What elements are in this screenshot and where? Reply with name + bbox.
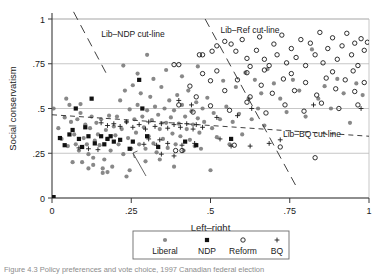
point-reform	[215, 69, 219, 73]
point-liberal	[139, 91, 143, 95]
point-ndp	[77, 137, 81, 141]
point-reform	[345, 31, 349, 35]
point-liberal	[231, 120, 235, 124]
point-liberal	[86, 166, 90, 170]
legend-marker-liberal	[163, 238, 167, 242]
point-liberal	[304, 114, 308, 118]
point-reform	[210, 49, 214, 53]
point-liberal	[174, 142, 178, 146]
point-reform	[194, 95, 198, 99]
y-tick-label-.25: .25	[32, 149, 45, 159]
legend-marker-ndp	[205, 238, 209, 242]
point-bq	[248, 144, 253, 149]
point-liberal	[156, 113, 160, 117]
point-liberal	[188, 138, 192, 142]
point-liberal	[354, 81, 358, 85]
point-liberal	[90, 114, 94, 118]
point-liberal	[123, 89, 127, 93]
point-liberal	[310, 47, 314, 51]
point-liberal	[104, 128, 108, 132]
legend-label-liberal: Liberal	[152, 246, 178, 256]
point-liberal	[240, 132, 244, 136]
point-liberal	[121, 63, 125, 67]
point-reform	[313, 53, 317, 57]
point-reform	[292, 88, 296, 92]
series-ndp	[51, 78, 233, 199]
point-liberal	[210, 126, 214, 130]
point-liberal	[284, 110, 288, 114]
point-bq	[189, 103, 194, 108]
point-reform	[283, 103, 287, 107]
point-liberal	[178, 134, 182, 138]
point-liberal	[170, 131, 174, 135]
point-liberal	[278, 97, 282, 101]
point-bq	[249, 106, 254, 111]
point-reform	[259, 83, 263, 87]
legend-label-ndp: NDP	[198, 246, 216, 256]
point-reform	[280, 33, 284, 37]
point-reform	[351, 69, 355, 73]
point-liberal	[335, 77, 339, 81]
point-reform	[359, 36, 363, 40]
point-reform	[289, 46, 293, 50]
cut-line-label-lib-bq-cut-line: Lib–BQ cut-line	[283, 129, 341, 139]
point-reform	[319, 101, 323, 105]
point-liberal	[143, 147, 147, 151]
point-liberal	[91, 156, 95, 160]
point-liberal	[71, 160, 75, 164]
y-axis-title: Social conservatism	[7, 66, 18, 151]
figure-caption: Figure 4.3 Policy preferences and vote c…	[4, 263, 376, 276]
point-reform	[362, 80, 366, 84]
point-reform	[223, 39, 227, 43]
point-reform	[270, 91, 274, 95]
point-reform	[334, 87, 338, 91]
point-ndp	[109, 134, 113, 138]
point-reform	[245, 100, 249, 104]
point-liberal	[131, 83, 135, 87]
point-reform	[248, 64, 252, 68]
point-liberal	[121, 152, 125, 156]
point-reform	[324, 76, 328, 80]
point-ndp	[183, 140, 187, 144]
point-liberal	[75, 117, 79, 121]
point-liberal	[202, 120, 206, 124]
point-liberal	[250, 117, 254, 121]
legend-label-reform: Reform	[229, 246, 257, 256]
point-liberal	[145, 53, 149, 57]
point-liberal	[137, 142, 141, 146]
point-reform	[200, 71, 204, 75]
point-ndp	[71, 128, 75, 132]
point-ndp	[67, 132, 71, 136]
point-ndp	[63, 143, 67, 147]
x-tick-label-.75: .75	[283, 206, 296, 216]
point-liberal	[105, 170, 109, 174]
point-reform	[281, 77, 285, 81]
point-reform	[188, 84, 192, 88]
point-liberal	[102, 157, 106, 161]
point-bq	[278, 137, 283, 142]
point-liberal	[69, 120, 73, 124]
point-liberal	[166, 146, 170, 150]
point-liberal	[143, 159, 147, 163]
point-reform	[314, 93, 318, 97]
point-reform	[340, 44, 344, 48]
point-liberal	[148, 95, 152, 99]
point-bq	[142, 142, 147, 147]
point-bq	[86, 146, 91, 151]
x-tick-label-.5: .5	[207, 206, 215, 216]
point-liberal	[297, 89, 301, 93]
point-reform	[234, 49, 238, 53]
point-reform	[362, 48, 366, 52]
point-liberal	[72, 132, 76, 136]
point-liberal	[196, 116, 200, 120]
x-tick-label-0: 0	[49, 206, 54, 216]
point-liberal	[159, 85, 163, 89]
point-reform	[215, 44, 219, 48]
point-liberal	[212, 111, 216, 115]
point-reform	[208, 79, 212, 83]
point-liberal	[135, 71, 139, 75]
point-liberal	[342, 91, 346, 95]
point-liberal	[67, 103, 71, 107]
point-reform	[262, 57, 266, 61]
point-liberal	[162, 106, 166, 110]
